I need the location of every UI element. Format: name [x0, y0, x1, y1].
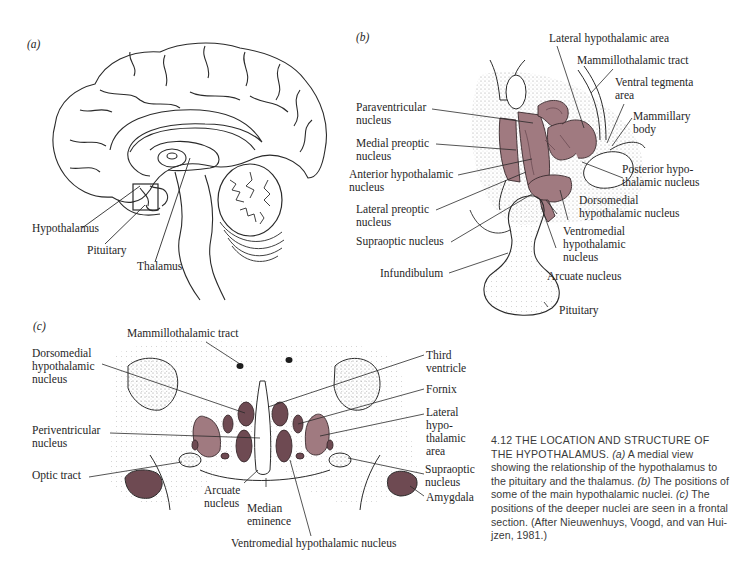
panel-b-tag: (b) — [356, 31, 369, 44]
label-ventromedial-hypothalamic-nucleus-b: Ventromedial hypothalamic nucleus — [563, 225, 626, 264]
panel-c-tag: (c) — [33, 320, 46, 333]
caption-tag-a: (a) — [612, 448, 625, 460]
cerebellum-drawing — [218, 164, 284, 261]
label-mammillothalamic-tract-c: Mammillothalamic tract — [127, 327, 238, 340]
label-posterior-hypothalamic-nucleus: Posterior hypo- thalamic nucleus — [622, 163, 700, 189]
label-fornix: Fornix — [426, 383, 457, 396]
label-third-ventricle: Third ventricle — [426, 349, 466, 375]
caption-tag-b: (b) — [637, 475, 650, 487]
label-mammillary-body: Mammillary body — [633, 110, 691, 136]
label-median-eminence: Median eminence — [247, 502, 291, 528]
label-lateral-hypothalamic-area-c: Lateral hypo- thalamic area — [426, 406, 466, 458]
label-mammillothalamic-tract-b: Mammillothalamic tract — [577, 54, 688, 67]
label-lateral-preoptic-nucleus: Lateral preoptic nucleus — [356, 203, 429, 229]
label-periventricular-nucleus: Periventricular nucleus — [32, 424, 100, 450]
label-anterior-hypothalamic-nucleus: Anterior hypothalamic nucleus — [349, 168, 453, 194]
label-supraoptic-nucleus-b: Supraoptic nucleus — [356, 235, 444, 248]
label-pituitary: Pituitary — [87, 244, 127, 257]
label-amygdala: Amygdala — [426, 491, 474, 504]
panel-a-tag: (a) — [27, 38, 40, 51]
label-lateral-hypothalamic-area: Lateral hypothalamic area — [549, 32, 669, 45]
panel-a-brain-drawing — [53, 43, 327, 300]
label-arcuate-nucleus-b: Arcuate nucleus — [547, 270, 621, 283]
label-hypothalamus: Hypothalamus — [32, 222, 99, 235]
label-optic-tract: Optic tract — [32, 469, 81, 482]
label-arcuate-nucleus-c: Arcuate nucleus — [204, 484, 240, 510]
label-paraventricular-nucleus: Paraventricular nucleus — [356, 101, 426, 127]
label-thalamus: Thalamus — [137, 260, 182, 273]
label-ventral-tegmenta-area: Ventral tegmenta area — [615, 76, 693, 102]
label-dorsomedial-hypothalamic-nucleus-b: Dorsomedial hypothalamic nucleus — [579, 194, 680, 220]
label-pituitary-b: Pituitary — [559, 304, 599, 317]
label-dorsomedial-hypothalamic-nucleus-c: Dorsomedial hypothalamic nucleus — [32, 347, 95, 386]
figure-caption: 4.12 THE LOCATION AND STRUCTURE OF THE H… — [491, 434, 731, 543]
label-supraoptic-nucleus-c: Supraoptic nucleus — [425, 463, 475, 489]
label-medial-preoptic-nucleus: Medial preoptic nucleus — [356, 137, 429, 163]
hypothalamus-figure: (a) Hypothalamus Pituitary Thalamus (b) … — [0, 0, 734, 563]
label-infundibulum: Infundibulum — [380, 267, 443, 280]
label-ventromedial-hypothalamic-nucleus-c: Ventromedial hypothalamic nucleus — [231, 537, 396, 550]
caption-tag-c: (c) — [676, 488, 689, 500]
